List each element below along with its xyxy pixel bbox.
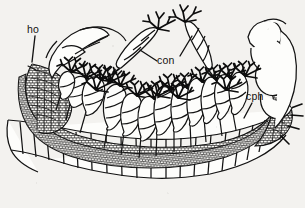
label-con: con [157, 55, 175, 66]
leader-con-left [140, 50, 157, 61]
leader-con-right [180, 36, 192, 56]
label-cph: cph [246, 91, 264, 102]
anatomical-drawing [0, 0, 305, 208]
figure-root: ho con cph [0, 0, 305, 208]
host-hair-right [248, 19, 296, 128]
leader-ho [32, 36, 35, 62]
free-conidium-right [169, 5, 213, 76]
label-ho: ho [27, 24, 39, 35]
